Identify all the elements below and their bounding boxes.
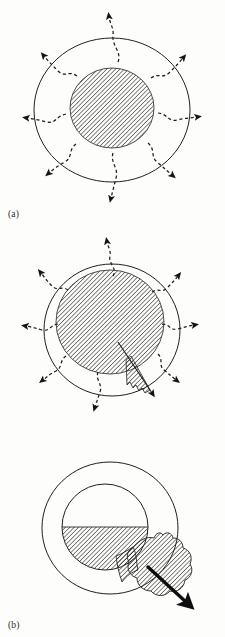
diffusion-arrow-nw (41, 273, 68, 290)
diffusion-arrow-w (27, 114, 66, 122)
panel-a-label: (a) (8, 210, 19, 220)
diffusion-arrow-s (111, 153, 117, 198)
diffusion-arrow-ne (152, 276, 178, 292)
figure-stack: (a) (0, 0, 225, 637)
diffusion-arrow-e (162, 324, 194, 329)
diffusion-arrow-n (109, 17, 119, 62)
diffusion-arrow-se (148, 143, 172, 175)
panel-b: (b) (0, 230, 225, 430)
diffusion-arrow-sw (43, 356, 66, 380)
core-hatched-circle (70, 68, 154, 148)
panel-c-graphic (0, 430, 225, 637)
panel-c: (c) (0, 430, 225, 637)
diffusion-arrow-ne (151, 58, 183, 78)
diffusion-arrow-e (158, 113, 197, 120)
diffusion-arrow-nw (44, 56, 77, 76)
panel-a-graphic (0, 0, 225, 230)
panel-b-graphic (0, 230, 225, 430)
panel-a: (a) (0, 0, 225, 230)
diffusion-arrow-sw (49, 144, 76, 173)
core-hatched-circle (56, 270, 164, 374)
diffusion-arrow-s (95, 372, 101, 407)
diffusion-arrow-w (26, 324, 58, 330)
